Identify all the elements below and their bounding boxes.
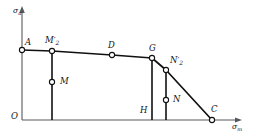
node-marker-nprime2 bbox=[163, 67, 168, 72]
node-marker-mprime2 bbox=[49, 48, 54, 53]
limit-envelope-polyline bbox=[22, 50, 212, 120]
node-marker-d bbox=[109, 52, 114, 57]
fatigue-limit-diagram: A M′2 D G N′2 M N H C O σa σm bbox=[0, 0, 256, 139]
x-axis-label-subscript: m bbox=[237, 126, 242, 132]
diagram-canvas bbox=[0, 0, 256, 139]
point-label-m: M bbox=[60, 77, 69, 86]
node-marker-m bbox=[49, 79, 54, 84]
point-label-a: A bbox=[25, 38, 31, 47]
point-label-mprime2-base: M bbox=[45, 35, 54, 45]
point-label-g: G bbox=[149, 44, 156, 53]
origin-label-o: O bbox=[11, 112, 18, 121]
node-markers-group bbox=[19, 47, 214, 122]
y-axis-label: σa bbox=[13, 6, 21, 15]
point-label-n: N bbox=[173, 95, 180, 104]
drop-lines-group bbox=[52, 51, 166, 120]
node-marker-n bbox=[163, 97, 168, 102]
node-marker-a bbox=[19, 47, 24, 52]
point-label-mprime2-sub: 2 bbox=[56, 39, 60, 46]
point-label-mprime2: M′2 bbox=[45, 36, 59, 45]
node-marker-g bbox=[149, 55, 154, 60]
x-axis-label: σm bbox=[232, 122, 242, 131]
y-axis-label-subscript: a bbox=[18, 10, 21, 16]
point-label-nprime2: N′2 bbox=[170, 56, 183, 65]
point-label-d: D bbox=[108, 41, 115, 50]
point-label-h: H bbox=[140, 106, 147, 115]
point-label-c: C bbox=[211, 105, 218, 114]
node-marker-c bbox=[209, 117, 214, 122]
limit-envelope-group bbox=[22, 50, 212, 120]
point-label-nprime2-sub: 2 bbox=[179, 59, 183, 66]
